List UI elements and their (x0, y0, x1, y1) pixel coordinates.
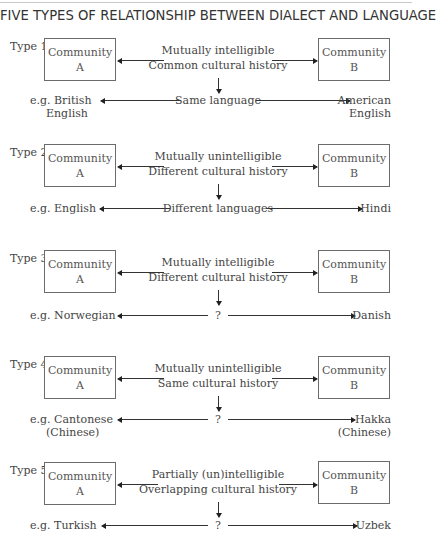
down-arrow (218, 78, 219, 93)
example-right-line2: (Chinese) (301, 426, 391, 439)
example-right: Hindi (301, 202, 391, 215)
box-line1: Community (45, 45, 115, 60)
community-b-box: Community B (318, 144, 390, 187)
box-line1: Community (45, 257, 115, 272)
box-line2: B (319, 60, 389, 75)
community-b-box: Community B (318, 38, 390, 81)
relation-text: Mutually intelligible Different cultural… (118, 255, 318, 285)
community-a-box: Community A (44, 250, 116, 293)
type-label: Type 1 (10, 40, 48, 53)
relation-text: Partially (un)intelligible Overlapping c… (118, 467, 318, 497)
community-b-box: Community B (318, 461, 390, 504)
box-line2: B (319, 166, 389, 181)
box-line1: Community (319, 45, 389, 60)
box-line2: A (45, 378, 115, 393)
arrow-to-community-b (272, 60, 317, 61)
type-label: Type 2 (10, 146, 48, 159)
box-line1: Community (319, 468, 389, 483)
example-right: Uzbek (301, 519, 391, 532)
top-divider (0, 2, 412, 3)
arrow-to-community-b (279, 484, 317, 485)
type-3-block: Type 3 Community A Community B Mutually … (0, 250, 412, 350)
example-right: Hakka (Chinese) (301, 413, 391, 439)
example-right-line1: Danish (301, 309, 391, 322)
example-left-line1: e.g. British (30, 94, 110, 107)
type-label: Type 5 (10, 464, 48, 477)
box-line2: B (319, 272, 389, 287)
example-left-line1: e.g. Cantonese (30, 413, 110, 426)
example-right-line1: Hakka (301, 413, 391, 426)
community-a-box: Community A (44, 38, 116, 81)
down-arrow (218, 502, 219, 517)
type-1-block: Type 1 Community A Community B Mutually … (0, 38, 412, 138)
relation-text: Mutually unintelligible Different cultur… (118, 149, 318, 179)
box-line2: A (45, 272, 115, 287)
box-line2: B (319, 378, 389, 393)
box-line2: A (45, 166, 115, 181)
box-line1: Community (45, 363, 115, 378)
community-a-box: Community A (44, 356, 116, 399)
example-left-line2: (Chinese) (30, 426, 110, 439)
example-left: e.g. Turkish (30, 519, 110, 532)
down-arrow (218, 290, 219, 305)
example-right-line1: Uzbek (301, 519, 391, 532)
box-line1: Community (319, 363, 389, 378)
box-line1: Community (45, 151, 115, 166)
box-line2: A (45, 60, 115, 75)
example-right: Danish (301, 309, 391, 322)
type-label: Type 3 (10, 252, 48, 265)
arrow-to-community-b (272, 378, 317, 379)
arrow-to-community-b (272, 272, 317, 273)
box-line1: Community (319, 151, 389, 166)
example-left: e.g. Norwegian (30, 309, 110, 322)
type-5-block: Type 5 Community A Community B Partially… (0, 462, 412, 536)
example-left: e.g. Cantonese (Chinese) (30, 413, 110, 439)
type-label: Type 4 (10, 358, 48, 371)
relation-text: Mutually intelligible Common cultural hi… (118, 43, 318, 73)
example-right-line1: Hindi (301, 202, 391, 215)
example-right: American English (301, 94, 391, 120)
example-left: e.g. English (30, 202, 110, 215)
community-a-box: Community A (44, 144, 116, 187)
relation-intelligibility: Mutually unintelligible (118, 361, 318, 376)
box-line1: Community (45, 469, 115, 484)
arrow-to-community-a (118, 484, 158, 485)
down-arrow (218, 396, 219, 411)
relation-intelligibility: Mutually intelligible (118, 43, 318, 58)
example-right-line1: American (301, 94, 391, 107)
example-left-line1: e.g. Turkish (30, 519, 110, 532)
box-line2: A (45, 484, 115, 499)
arrow-to-community-a (118, 60, 164, 61)
example-left: e.g. British English (30, 94, 110, 120)
example-left-line1: e.g. English (30, 202, 110, 215)
example-left-line1: e.g. Norwegian (30, 309, 110, 322)
diagram-title: FIVE TYPES OF RELATIONSHIP BETWEEN DIALE… (0, 8, 412, 23)
community-b-box: Community B (318, 250, 390, 293)
box-line1: Community (319, 257, 389, 272)
arrow-to-community-a (118, 166, 164, 167)
down-arrow (218, 184, 219, 199)
relation-intelligibility: Mutually intelligible (118, 255, 318, 270)
example-left-line2: English (30, 107, 110, 120)
arrow-to-community-a (118, 378, 164, 379)
arrow-to-community-a (118, 272, 164, 273)
relation-text: Mutually unintelligible Same cultural hi… (118, 361, 318, 391)
arrow-to-community-b (272, 166, 317, 167)
community-b-box: Community B (318, 356, 390, 399)
type-2-block: Type 2 Community A Community B Mutually … (0, 144, 412, 244)
relation-intelligibility: Partially (un)intelligible (118, 467, 318, 482)
box-line2: B (319, 483, 389, 498)
type-4-block: Type 4 Community A Community B Mutually … (0, 356, 412, 456)
community-a-box: Community A (44, 462, 116, 505)
relation-intelligibility: Mutually unintelligible (118, 149, 318, 164)
example-right-line2: English (301, 107, 391, 120)
